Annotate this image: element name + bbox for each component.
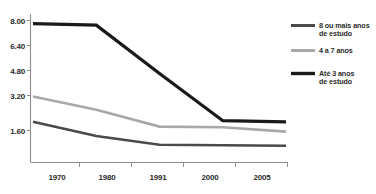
legend-item-4-a-7-anos[interactable]: 4 a 7 anos bbox=[291, 46, 353, 55]
series-line-4-a-7-anos bbox=[33, 97, 286, 132]
y-tick-label: 3.20 bbox=[10, 92, 26, 101]
x-tick-labels: 1970 1980 1991 2000 2005 bbox=[49, 173, 272, 182]
y-tick-labels: 8.00 6.40 4.80 3.20 1.60 bbox=[10, 17, 26, 136]
legend-label: de estudo bbox=[319, 29, 353, 38]
y-tick-label: 6.40 bbox=[10, 42, 26, 51]
series-line-ate-3-anos bbox=[33, 24, 286, 122]
y-tick-label: 8.00 bbox=[10, 17, 26, 26]
x-tick-label: 2000 bbox=[202, 173, 220, 182]
chart-screenshot: 8.00 6.40 4.80 3.20 1.60 1970 1980 1991 … bbox=[0, 0, 376, 194]
x-tick-marks bbox=[80, 163, 288, 168]
legend-label: de estudo bbox=[319, 77, 353, 86]
y-tick-label: 4.80 bbox=[10, 67, 26, 76]
x-tick-label: 2005 bbox=[254, 173, 272, 182]
chart-legend: 8 ou mais anos de estudo 4 a 7 anos Até … bbox=[291, 21, 370, 86]
x-tick-label: 1980 bbox=[99, 173, 117, 182]
series-group bbox=[33, 24, 286, 146]
x-tick-label: 1970 bbox=[49, 173, 67, 182]
legend-label: 4 a 7 anos bbox=[319, 46, 353, 55]
y-tick-label: 1.60 bbox=[10, 127, 26, 136]
x-tick-label: 1991 bbox=[150, 173, 168, 182]
line-chart: 8.00 6.40 4.80 3.20 1.60 1970 1980 1991 … bbox=[0, 0, 376, 194]
legend-item-ate-3-anos[interactable]: Até 3 anos de estudo bbox=[291, 69, 354, 86]
legend-item-8-ou-mais-anos[interactable]: 8 ou mais anos de estudo bbox=[291, 21, 370, 38]
